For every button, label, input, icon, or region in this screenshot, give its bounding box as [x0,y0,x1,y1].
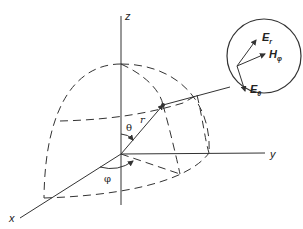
field-inset: Er Hφ Eθ [227,19,301,97]
leader-line [163,87,230,105]
theta-arc [121,134,133,140]
y-label: y [269,148,277,160]
x-axis [20,154,121,218]
x-label: x [8,212,15,224]
z-label: z [124,10,131,22]
point-p [161,103,165,107]
theta-label: θ [126,122,132,133]
phi-label: φ [104,173,111,184]
phi-arc [100,161,133,169]
y-axis [121,153,265,154]
r-label: r [140,114,146,125]
spherical-diagram: z y x θ φ r Er Hφ Eθ [0,0,303,229]
